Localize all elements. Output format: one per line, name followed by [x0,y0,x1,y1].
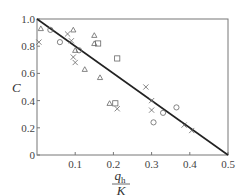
x-axis-label: qh K [112,168,130,195]
cross-marker [73,60,78,65]
y-tick-label: 0.4 [21,95,35,107]
y-tick-label: 0.6 [21,67,35,79]
square-marker [115,56,120,61]
triangle-marker [97,75,102,80]
y-axis-label: C [12,80,21,95]
cross-marker [149,108,154,113]
triangle-marker [92,41,97,46]
cross-marker [71,54,76,59]
circle-marker [151,120,156,125]
x-tick-label: 0.5 [221,158,235,170]
x-label-denominator: K [116,183,127,195]
triangle-marker [92,33,97,38]
triangle-marker [38,26,43,31]
x-tick-label: 0.3 [145,158,159,170]
scatter-chart: 00.20.40.60.81.0 0.10.20.30.40.5 C qh K [0,0,245,195]
fit-line [37,19,228,155]
x-tick-label: 0.4 [183,158,197,170]
cross-marker [143,84,148,89]
cross-marker [149,98,154,103]
triangle-marker [107,101,112,106]
x-tick-label: 0.1 [68,158,82,170]
circle-marker [160,110,165,115]
data-points [36,26,194,133]
y-tick-label: 0.8 [21,40,35,52]
cross-marker [115,106,120,111]
y-tick-label: 0 [30,149,36,161]
circle-marker [57,40,62,45]
y-tick-label: 0.2 [21,122,35,134]
triangle-marker [82,67,87,72]
triangle-marker [71,27,76,32]
fit-line-path [37,19,228,155]
y-tick-label: 1.0 [21,13,35,25]
circle-marker [174,105,179,110]
cross-marker [65,31,70,36]
square-marker [113,101,118,106]
